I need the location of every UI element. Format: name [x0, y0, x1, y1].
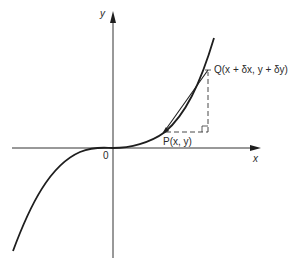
secant-line-pq: [164, 70, 208, 132]
x-axis-arrowhead-icon: [250, 145, 261, 151]
point-q-label: Q(x + δx, y + δy): [214, 65, 288, 75]
y-axis-label: y: [100, 9, 105, 19]
y-axis: [110, 11, 116, 258]
x-axis-label: x: [253, 154, 258, 164]
y-axis-arrowhead-icon: [110, 11, 116, 23]
right-angle-marker-icon: [202, 126, 208, 132]
origin-label: 0: [103, 151, 109, 161]
point-p-label: P(x, y): [163, 137, 192, 147]
p-arrowhead-icon: [162, 127, 169, 134]
calculus-diagram: [0, 0, 291, 265]
